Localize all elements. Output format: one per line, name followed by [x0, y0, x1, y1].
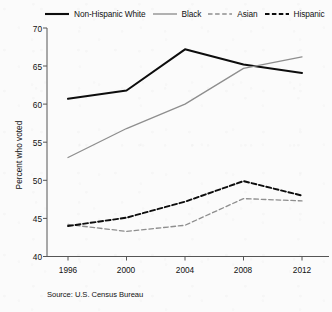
series-line-hispanic: [68, 181, 302, 226]
source-note: Source: U.S. Census Bureau: [47, 290, 143, 299]
data-series-layer: [68, 49, 302, 231]
series-line-non-hispanic-white: [68, 49, 302, 99]
x-axis-ticks: [68, 257, 302, 261]
series-line-black: [68, 57, 302, 158]
x-tick-label-2008: 2008: [223, 265, 263, 275]
y-axis-ticks: [43, 28, 47, 257]
chart-figure: Non-Hispanic White Black Asian Hispanic …: [0, 0, 332, 312]
x-tick-label-2012: 2012: [282, 265, 322, 275]
x-tick-label-1996: 1996: [48, 265, 88, 275]
x-tick-label-2004: 2004: [165, 265, 205, 275]
series-line-asian: [68, 199, 302, 232]
x-tick-label-2000: 2000: [106, 265, 146, 275]
